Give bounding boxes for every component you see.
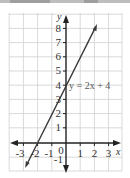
svg-text:2: 2 — [92, 147, 98, 159]
svg-text:8: 8 — [56, 22, 62, 34]
y-axis-label: y — [56, 11, 62, 22]
svg-text:4: 4 — [56, 79, 62, 91]
x-tick-labels: -3 -2 -1 0 1 2 3 — [15, 144, 111, 159]
coordinate-plane: 8 7 6 5 4 3 2 1 -1 -3 -2 -1 0 1 2 3 y x … — [0, 0, 130, 178]
svg-text:-1: -1 — [44, 147, 53, 159]
y-axis-down-arrow-icon — [63, 165, 69, 173]
svg-text:1: 1 — [77, 147, 83, 159]
svg-text:1: 1 — [56, 121, 62, 133]
svg-text:3: 3 — [106, 147, 112, 159]
svg-text:7: 7 — [56, 36, 62, 48]
svg-text:6: 6 — [56, 50, 62, 62]
svg-text:0: 0 — [58, 144, 64, 156]
svg-text:3: 3 — [56, 93, 62, 105]
svg-text:5: 5 — [56, 64, 62, 76]
equation-label: y = 2x + 4 — [69, 80, 110, 91]
y-axis-up-arrow-icon — [63, 15, 69, 23]
line-lower-arrow-icon — [25, 161, 29, 168]
x-axis-left-arrow-icon — [10, 140, 18, 146]
y-axis — [63, 15, 69, 173]
x-axis-label: x — [115, 146, 121, 157]
svg-text:-3: -3 — [15, 147, 25, 159]
svg-text:2: 2 — [56, 107, 62, 119]
